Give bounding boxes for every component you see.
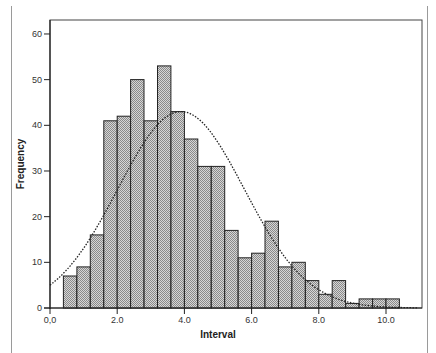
histogram-bar (131, 80, 144, 308)
histogram-bar (238, 258, 251, 308)
histogram-bar (117, 116, 130, 308)
histogram-bar (171, 112, 184, 308)
histogram-bar (279, 267, 292, 308)
histogram-bar (386, 299, 399, 308)
x-tick-label: 4.0 (178, 315, 191, 325)
histogram-chart: 0102030405060 0,02.04.06.08.010.0 Interv… (0, 0, 436, 353)
histogram-bar (211, 166, 224, 308)
y-axis-ticks: 0102030405060 (32, 29, 50, 313)
histogram-bar (198, 166, 211, 308)
y-tick-label: 40 (32, 120, 42, 130)
histogram-bar (144, 121, 157, 308)
x-tick-label: 2.0 (111, 315, 124, 325)
histogram-bar (359, 299, 372, 308)
y-tick-label: 60 (32, 29, 42, 39)
y-tick-label: 20 (32, 212, 42, 222)
x-tick-label: 8.0 (313, 315, 326, 325)
histogram-bar (305, 281, 318, 308)
histogram-bar (292, 262, 305, 308)
histogram-bar (265, 221, 278, 308)
histogram-bar (225, 230, 238, 308)
x-tick-label: 0,0 (44, 315, 57, 325)
histogram-bar (77, 267, 90, 308)
x-tick-label: 6.0 (245, 315, 258, 325)
y-tick-label: 50 (32, 75, 42, 85)
x-axis-title: Interval (200, 329, 236, 340)
y-axis-title: Frequency (15, 138, 26, 189)
histogram-bar (252, 253, 265, 308)
histogram-bar (332, 281, 345, 308)
histogram-bar (104, 121, 117, 308)
x-axis-ticks: 0,02.04.06.08.010.0 (44, 308, 395, 325)
histogram-bar (63, 276, 76, 308)
y-tick-label: 0 (37, 303, 42, 313)
histogram-bar (90, 235, 103, 308)
histogram-bar (158, 66, 171, 308)
y-tick-label: 10 (32, 257, 42, 267)
histogram-bar (184, 139, 197, 308)
x-tick-label: 10.0 (377, 315, 395, 325)
y-tick-label: 30 (32, 166, 42, 176)
